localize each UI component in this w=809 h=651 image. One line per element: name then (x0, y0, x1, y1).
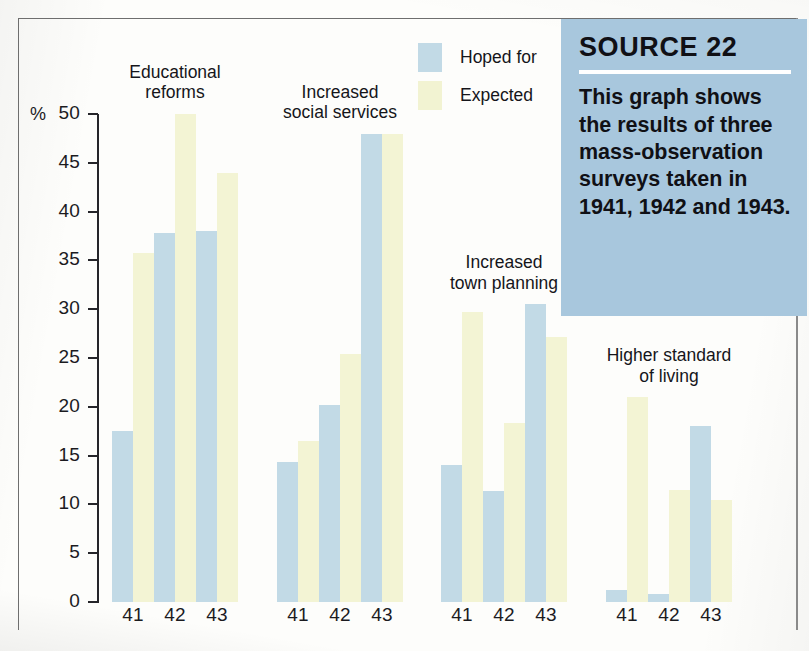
bar-hoped-41[interactable] (112, 431, 133, 602)
x-axis-tick-label: 41 (112, 604, 154, 626)
y-axis-tick-mark (88, 552, 98, 554)
y-axis-tick-mark (88, 406, 98, 408)
bar-slot (217, 112, 238, 602)
x-axis-tick-label: 43 (361, 604, 403, 626)
bar-group: 414243 (277, 112, 403, 602)
bar-hoped-42[interactable] (648, 594, 669, 602)
y-axis-tick-mark (88, 259, 98, 261)
y-axis-tick-label: 20 (40, 395, 80, 417)
bar-hoped-41[interactable] (441, 465, 462, 602)
legend-label: Hoped for (460, 47, 537, 68)
bar-slot (504, 112, 525, 602)
bar-slot (298, 112, 319, 602)
bar-slot (154, 112, 175, 602)
y-axis-tick-label: 5 (40, 541, 80, 563)
bar-slot (462, 112, 483, 602)
bar-group-bars (277, 112, 403, 602)
bar-expected-43[interactable] (217, 173, 238, 602)
x-axis-tick-label: 42 (483, 604, 525, 626)
bar-hoped-43[interactable] (196, 231, 217, 602)
bar-slot (382, 112, 403, 602)
source-body-text: This graph shows the results of three ma… (579, 84, 791, 220)
y-axis-tick-label: 15 (40, 444, 80, 466)
y-axis-tick-mark (88, 601, 98, 603)
y-axis-tick-label: 25 (40, 346, 80, 368)
bar-slot (525, 112, 546, 602)
bar-slot (196, 112, 217, 602)
source-panel: SOURCE 22 This graph shows the results o… (561, 19, 807, 316)
y-axis-tick-label: 0 (40, 590, 80, 612)
figure-page: % 05101520253035404550 414243Educational… (0, 0, 809, 651)
bar-hoped-43[interactable] (690, 426, 711, 602)
bar-group-title: Increased social services (252, 82, 428, 123)
x-axis-labels: 414243 (112, 604, 238, 626)
bar-slot (277, 112, 298, 602)
bar-expected-41[interactable] (627, 397, 648, 602)
bar-hoped-41[interactable] (277, 462, 298, 602)
chart-legend: Hoped forExpected (418, 38, 537, 114)
bar-expected-41[interactable] (133, 253, 154, 602)
y-axis-tick-label: 30 (40, 297, 80, 319)
bar-group-bars (441, 112, 567, 602)
bar-expected-42[interactable] (175, 114, 196, 602)
bar-expected-43[interactable] (546, 337, 567, 602)
x-axis-tick-label: 42 (154, 604, 196, 626)
y-axis-tick-mark (88, 211, 98, 213)
bar-expected-42[interactable] (340, 354, 361, 602)
y-axis-tick-mark (88, 455, 98, 457)
legend-item[interactable]: Hoped for (418, 38, 537, 76)
bar-expected-42[interactable] (504, 423, 525, 602)
legend-label: Expected (460, 85, 533, 106)
x-axis-tick-label: 43 (525, 604, 567, 626)
bar-expected-42[interactable] (669, 490, 690, 602)
y-axis-tick-label: 50 (40, 102, 80, 124)
bar-hoped-42[interactable] (483, 491, 504, 602)
x-axis-labels: 414243 (441, 604, 567, 626)
y-axis-tick-mark (88, 308, 98, 310)
bar-group-bars (112, 112, 238, 602)
bar-expected-41[interactable] (462, 312, 483, 602)
bar-hoped-43[interactable] (361, 134, 382, 602)
bar-expected-43[interactable] (711, 500, 732, 602)
x-axis-labels: 414243 (606, 604, 732, 626)
x-axis-tick-label: 43 (690, 604, 732, 626)
bar-slot (361, 112, 382, 602)
bar-hoped-41[interactable] (606, 590, 627, 602)
y-axis-tick-label: 45 (40, 151, 80, 173)
bar-slot (319, 112, 340, 602)
y-axis-tick-mark (88, 503, 98, 505)
legend-swatch-expected (418, 81, 442, 110)
bar-slot (340, 112, 361, 602)
y-axis-tick-mark (88, 357, 98, 359)
x-axis-tick-label: 41 (441, 604, 483, 626)
bar-hoped-42[interactable] (319, 405, 340, 602)
bar-group: 414243 (112, 112, 238, 602)
bar-slot (133, 112, 154, 602)
y-axis-tick-label: 40 (40, 200, 80, 222)
y-axis-tick-label: 35 (40, 248, 80, 270)
x-axis-tick-label: 41 (277, 604, 319, 626)
legend-swatch-hoped (418, 43, 442, 72)
bar-slot (112, 112, 133, 602)
x-axis-tick-label: 41 (606, 604, 648, 626)
x-axis-tick-label: 42 (648, 604, 690, 626)
x-axis-tick-label: 42 (319, 604, 361, 626)
bar-hoped-43[interactable] (525, 304, 546, 602)
source-title: SOURCE 22 (579, 33, 791, 61)
legend-item[interactable]: Expected (418, 76, 537, 114)
y-axis-tick-mark (88, 162, 98, 164)
bar-slot (441, 112, 462, 602)
x-axis-tick-label: 43 (196, 604, 238, 626)
bar-hoped-42[interactable] (154, 233, 175, 602)
y-axis-tick-label: 10 (40, 492, 80, 514)
bar-group: 414243 (441, 112, 567, 602)
x-axis-labels: 414243 (277, 604, 403, 626)
bar-expected-41[interactable] (298, 441, 319, 602)
y-axis-tick-mark (88, 113, 98, 115)
bar-group-title: Higher standard of living (581, 345, 757, 386)
bar-expected-43[interactable] (382, 134, 403, 602)
bar-slot (175, 112, 196, 602)
bar-slot (483, 112, 504, 602)
source-divider (579, 70, 791, 74)
bar-group-title: Educational reforms (87, 62, 263, 103)
